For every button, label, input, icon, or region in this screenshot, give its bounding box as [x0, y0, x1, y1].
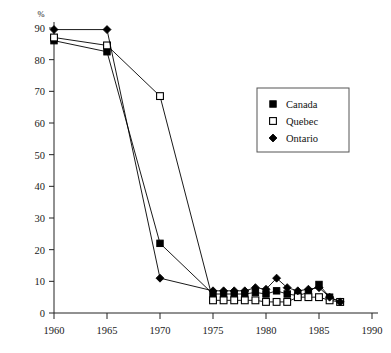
y-tick-label: 40: [35, 181, 46, 192]
marker-open-square: [104, 42, 111, 49]
y-tick-label: 60: [35, 118, 46, 129]
marker-open-square: [305, 294, 312, 301]
series-line: [54, 38, 340, 302]
marker-open-square: [263, 299, 270, 306]
series-ontario: [50, 26, 344, 306]
legend-item-label: Ontario: [286, 133, 318, 144]
marker-open-square: [51, 34, 58, 41]
series-line: [54, 30, 340, 302]
series-line: [54, 41, 340, 302]
y-tick-label: 30: [35, 213, 46, 224]
marker-open-square: [241, 297, 248, 304]
x-tick-label: 1990: [362, 325, 383, 336]
marker-open-square: [157, 93, 164, 100]
y-axis-unit-label: %: [37, 9, 44, 19]
marker-filled-square: [270, 101, 276, 107]
marker-filled-diamond: [156, 274, 164, 282]
legend-item-label: Canada: [286, 99, 318, 110]
y-tick-label: 70: [35, 86, 46, 97]
marker-filled-square: [104, 49, 110, 55]
marker-filled-square: [157, 240, 163, 246]
x-tick-label: 1970: [150, 325, 171, 336]
marker-filled-diamond: [103, 26, 111, 34]
x-tick-label: 1965: [97, 325, 118, 336]
x-tick-label: 1985: [309, 325, 330, 336]
marker-open-square: [210, 297, 217, 304]
marker-filled-square: [273, 288, 279, 294]
marker-open-square: [273, 299, 280, 306]
x-tick-label: 1960: [44, 325, 65, 336]
y-tick-label: 0: [40, 308, 45, 319]
marker-open-square: [252, 297, 259, 304]
marker-open-square: [316, 294, 323, 301]
y-tick-label: 20: [35, 245, 46, 256]
x-tick-label: 1975: [203, 325, 224, 336]
legend: CanadaQuebecOntario: [257, 88, 349, 152]
y-tick-label: 50: [35, 150, 46, 161]
series-quebec: [51, 34, 344, 305]
y-tick-label: 80: [35, 55, 46, 66]
y-tick-label: 90: [35, 23, 46, 34]
marker-open-square: [231, 297, 238, 304]
series-canada: [51, 37, 344, 305]
y-tick-label: 10: [35, 276, 46, 287]
chart-container: 0102030405060708090%19601965197019751980…: [0, 0, 391, 353]
marker-open-square: [270, 118, 277, 125]
marker-open-square: [284, 299, 291, 306]
x-tick-label: 1980: [256, 325, 277, 336]
marker-filled-diamond: [50, 26, 58, 34]
legend-item-label: Quebec: [286, 116, 318, 127]
marker-open-square: [220, 297, 227, 304]
line-chart: 0102030405060708090%19601965197019751980…: [0, 0, 391, 353]
